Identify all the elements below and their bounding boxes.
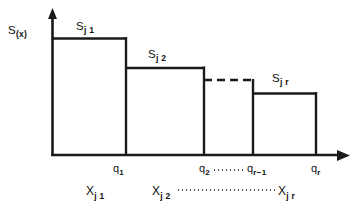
x-tick-label-q1-sub: 1	[119, 168, 124, 177]
y-axis-label-base: S	[8, 24, 16, 36]
step-label-sj2-sub: j 2	[156, 53, 166, 63]
interval-label-xj2-sub: j 2	[160, 191, 170, 201]
interval-label-xj1-base: X	[86, 184, 94, 198]
x-tick-label-qr-1: qr−1	[247, 163, 266, 174]
y-axis-label-sub: (x)	[16, 29, 27, 39]
step-label-sj1-base: S	[76, 20, 84, 32]
y-axis-label: S(x)	[8, 25, 27, 37]
step-label-sj2-base: S	[148, 48, 156, 60]
x-tick-label-q1: q1	[113, 163, 124, 174]
x-tick-label-qr-1-sub: r−1	[253, 168, 266, 177]
interval-label-xj2-base: X	[152, 184, 160, 198]
step-function-figure: S(x) Sj 1 Sj 2 Sj r q1 q2 qr−1 qr Xj 1 X…	[0, 0, 361, 211]
step-label-sjr: Sj r	[272, 73, 289, 85]
step-label-sjr-base: S	[272, 72, 280, 84]
x-tick-label-qr-sub: r	[317, 168, 320, 177]
x-tick-label-q2-sub: 2	[205, 168, 210, 177]
interval-label-xj1-sub: j 1	[94, 191, 104, 201]
step-block-dashed	[204, 79, 254, 156]
interval-label-xjr: Xj r	[278, 185, 295, 197]
interval-label-xjr-base: X	[278, 184, 286, 198]
interval-label-xj1: Xj 1	[86, 185, 105, 197]
diagram-canvas	[0, 0, 361, 211]
step-label-sj2: Sj 2	[148, 49, 166, 61]
step-label-sj1: Sj 1	[76, 21, 94, 33]
x-axis	[51, 150, 350, 161]
x-tick-label-qr: qr	[311, 163, 321, 174]
x-tick-label-q2: q2	[199, 163, 210, 174]
interval-label-xj2: Xj 2	[152, 185, 171, 197]
step-block-r	[252, 92, 317, 156]
step-block-2	[125, 67, 205, 157]
step-label-sj1-sub: j 1	[84, 25, 94, 35]
step-label-sjr-sub: j r	[280, 77, 289, 87]
interval-label-xjr-sub: j r	[286, 191, 295, 201]
y-axis	[48, 8, 57, 155]
step-block-1	[52, 37, 127, 156]
